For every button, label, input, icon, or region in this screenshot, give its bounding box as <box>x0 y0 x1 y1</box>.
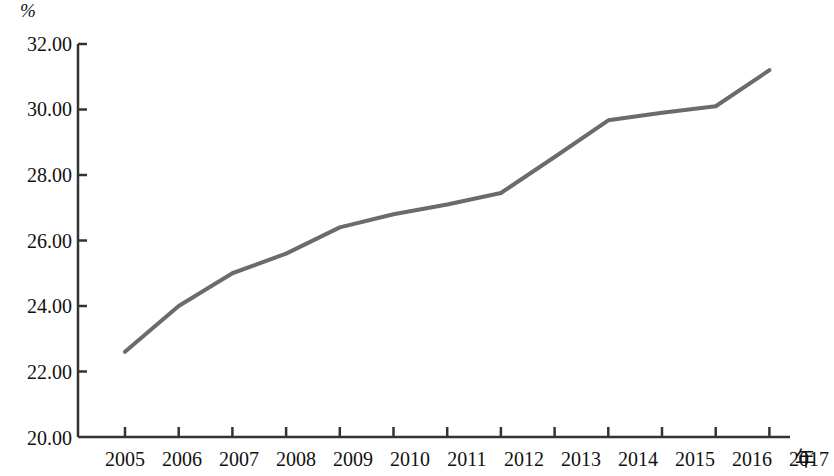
x-axis-ticks <box>125 427 769 437</box>
y-axis-ticks <box>78 44 87 437</box>
data-series-line <box>125 70 769 352</box>
x-axis-unit-label: 年 <box>795 449 815 469</box>
axis-lines <box>78 44 790 437</box>
